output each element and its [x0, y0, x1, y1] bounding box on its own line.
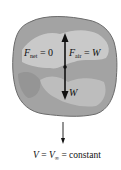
center-of-mass-dot [63, 65, 67, 69]
v-equals: = [39, 150, 49, 160]
weight-label: W [69, 88, 77, 98]
v-constant: = constant [59, 150, 101, 160]
fnet-value: = 0 [37, 47, 53, 58]
fair-equals: = [81, 47, 92, 58]
weight-symbol: W [69, 87, 77, 98]
velocity-label: V = V∞ = constant [33, 151, 101, 161]
air-force-label: Fair = W [69, 48, 100, 59]
velocity-arrow [61, 122, 65, 144]
terminal-velocity-diagram: Fnet = 0 Fair = W W V = V∞ = constant [0, 0, 121, 170]
velocity-arrow-head [61, 138, 65, 144]
fair-value: W [92, 47, 100, 58]
net-force-label: Fnet = 0 [24, 48, 53, 59]
diagram-canvas [0, 0, 121, 170]
